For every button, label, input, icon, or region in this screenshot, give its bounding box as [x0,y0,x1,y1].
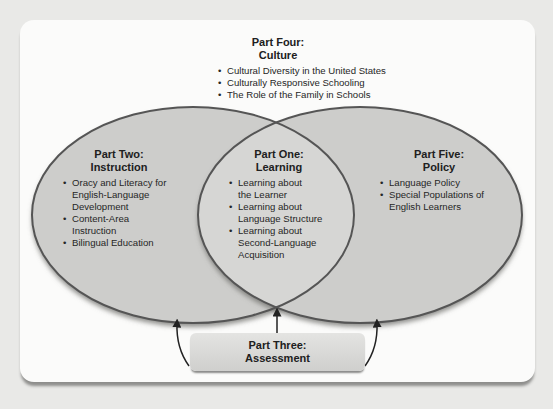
list-item: Learning about Second-Language Acquisiti… [229,225,326,261]
list-item: The Role of the Family in Schools [218,89,448,101]
part-two-title-1: Part Two: [63,148,175,161]
arrow-to-instruction-icon [177,323,189,366]
list-item: Language Policy [380,177,498,189]
part-two-title-2: Instruction [63,161,175,174]
part-five-policy: Part Five: Policy Language Policy Specia… [380,148,498,213]
list-item: Content-Area Instruction [63,213,175,237]
list-item: Culturally Responsive Schooling [218,77,448,89]
list-item: Learning about the Learner [229,177,310,201]
part-four-title-1: Part Four: [218,36,338,49]
list-item: Oracy and Literacy for English-Language … [63,177,175,213]
part-five-list: Language Policy Special Populations of E… [380,177,498,213]
part-five-title-2: Policy [380,161,498,174]
list-item: Special Populations of English Learners [380,189,498,213]
part-three-title-2: Assessment [190,352,365,365]
part-four-list: Cultural Diversity in the United States … [218,65,448,101]
part-one-learning: Part One: Learning Learning about the Le… [225,148,333,261]
arrow-to-policy-icon [365,323,377,366]
part-four-title-2: Culture [218,49,338,62]
part-three-title-1: Part Three: [190,339,365,352]
part-one-list: Learning about the Learner Learning abou… [229,177,333,261]
list-item: Learning about Language Structure [229,201,330,225]
part-one-title-1: Part One: [225,148,333,161]
part-two-instruction: Part Two: Instruction Oracy and Literacy… [63,148,175,249]
part-one-title-2: Learning [225,161,333,174]
list-item: Cultural Diversity in the United States [218,65,448,77]
list-item: Bilingual Education [63,237,175,249]
part-two-list: Oracy and Literacy for English-Language … [63,177,175,249]
part-three-assessment: Part Three: Assessment [190,333,365,371]
part-five-title-1: Part Five: [380,148,498,161]
part-four-culture: Part Four: Culture Cultural Diversity in… [218,36,448,101]
